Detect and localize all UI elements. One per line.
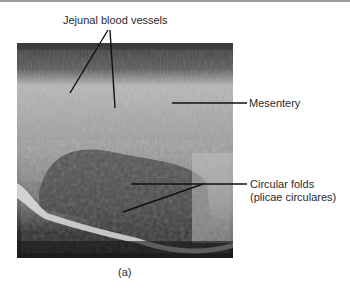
label-plicae-circulares: (plicae circulares) [250, 191, 336, 204]
leader-lines [0, 0, 350, 292]
label-circular-folds: Circular folds [250, 178, 314, 191]
label-mesentery: Mesentery [249, 97, 300, 110]
vessels-leader-2 [110, 30, 115, 108]
folds-leader-2 [123, 184, 203, 212]
figure-caption: (a) [118, 266, 131, 279]
label-jejunal-blood-vessels: Jejunal blood vessels [63, 14, 168, 27]
vessels-leader-1 [70, 30, 108, 93]
